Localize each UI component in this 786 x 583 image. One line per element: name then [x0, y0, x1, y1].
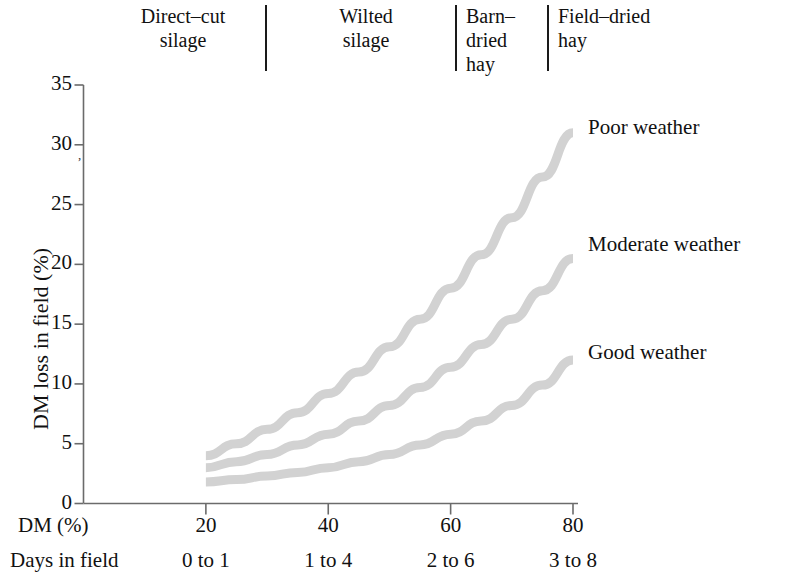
days-in-field-value-80: 3 to 8 — [518, 548, 628, 573]
x-tick-label-80: 80 — [543, 513, 603, 538]
scan-artifact-mark: , — [78, 147, 81, 163]
y-tick-label-30: 30 — [30, 131, 72, 156]
chart-root: Direct–cut silage Wilted silage Barn– dr… — [0, 0, 786, 583]
x-tick-marks — [206, 504, 573, 515]
x-tick-label-40: 40 — [298, 513, 358, 538]
y-tick-label-5: 5 — [30, 430, 72, 455]
days-in-field-value-60: 2 to 6 — [396, 548, 506, 573]
x-tick-label-60: 60 — [421, 513, 481, 538]
y-tick-label-35: 35 — [30, 71, 72, 96]
days-in-field-title: Days in field — [10, 548, 118, 573]
series-label-good-weather: Good weather — [588, 340, 706, 365]
days-in-field-value-20: 0 to 1 — [151, 548, 261, 573]
days-in-field-value-40: 1 to 4 — [273, 548, 383, 573]
y-tick-label-25: 25 — [30, 191, 72, 216]
x-tick-label-20: 20 — [176, 513, 236, 538]
plot-area: 35302520151050 20406080 0 to 11 to 42 to… — [0, 0, 786, 583]
data-curves — [206, 133, 573, 482]
y-axis-title: DM loss in field (%) — [28, 248, 54, 430]
x-axis-title: DM (%) — [18, 513, 89, 538]
series-label-moderate-weather: Moderate weather — [588, 232, 740, 257]
series-label-poor-weather: Poor weather — [588, 115, 699, 140]
plot-canvas — [0, 0, 786, 583]
y-tick-label-0: 0 — [30, 490, 72, 515]
